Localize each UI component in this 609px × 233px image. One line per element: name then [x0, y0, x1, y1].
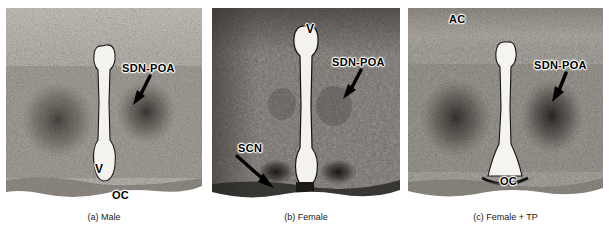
ventricle-label: V	[306, 22, 314, 36]
panel-b-caption: (b) Female	[212, 212, 400, 222]
optic-chiasm-label: OC	[112, 189, 129, 201]
optic-chiasm-label: OC	[500, 175, 517, 187]
ventricle-label: V	[95, 162, 103, 176]
sdn-poa-label: SDN-POA	[534, 59, 587, 71]
panel-b-micrograph	[212, 8, 400, 203]
anterior-commissure-label: AC	[449, 13, 466, 25]
panel-a: SDN-POA V OC	[6, 8, 202, 203]
panel-b: V SDN-POA SCN	[212, 8, 400, 203]
panel-a-caption: (a) Male	[6, 212, 202, 222]
panel-c: AC SDN-POA OC	[408, 8, 603, 203]
sdn-poa-label: SDN-POA	[122, 62, 175, 74]
scn-label: SCN	[238, 142, 262, 154]
panel-c-caption: (c) Female + TP	[408, 212, 603, 222]
panel-c-micrograph	[408, 8, 603, 203]
micrograph-figure: SDN-POA V OC (a) Male	[0, 0, 609, 233]
sdn-poa-label: SDN-POA	[332, 56, 385, 68]
panel-a-micrograph	[6, 8, 202, 203]
